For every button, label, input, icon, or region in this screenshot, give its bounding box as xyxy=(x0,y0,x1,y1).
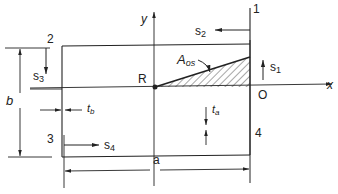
box-section-diagram: 1 2 3 4 R O x y Aos s1 s2 s3 s4 b a tb t… xyxy=(0,0,338,194)
thickness-ta-label: ta xyxy=(212,103,220,117)
dim-a-left xyxy=(65,170,150,171)
corner-4-label: 4 xyxy=(255,126,262,140)
point-r-dot xyxy=(153,85,158,90)
s1-label: s1 xyxy=(270,60,281,75)
corner-3-label: 3 xyxy=(47,132,54,146)
x-axis-label: x xyxy=(326,78,334,92)
s2-label: s2 xyxy=(195,24,206,39)
dim-a-right xyxy=(160,169,249,170)
thickness-tb-label: tb xyxy=(87,102,95,116)
width-a-label: a xyxy=(153,153,160,167)
area-label: Aos xyxy=(176,52,196,68)
corner-1-label: 1 xyxy=(253,2,260,16)
axes xyxy=(30,12,332,186)
corner-2-label: 2 xyxy=(47,32,54,46)
height-b-label: b xyxy=(6,93,13,108)
point-r-label: R xyxy=(138,72,147,86)
origin-o-label: O xyxy=(258,88,267,102)
s3-label: s3 xyxy=(33,69,44,84)
y-axis-label: y xyxy=(140,12,148,26)
s4-label: s4 xyxy=(104,138,115,153)
